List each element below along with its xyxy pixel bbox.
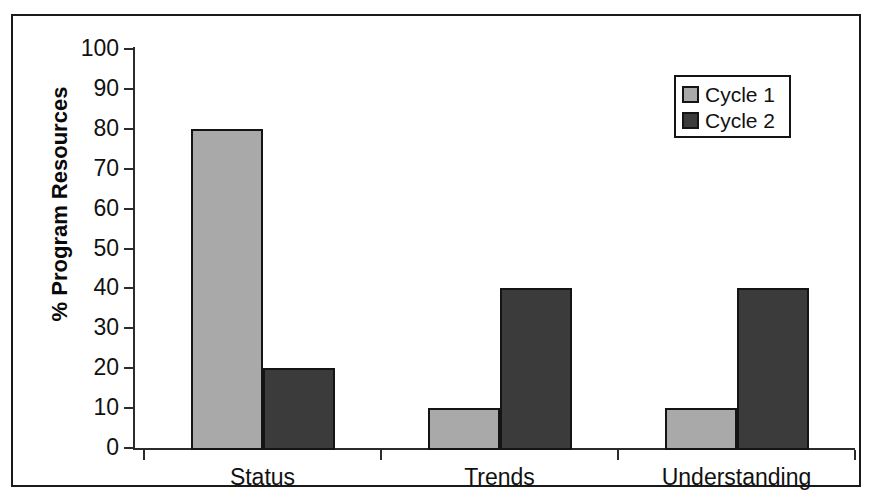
y-axis-tick-label: 40 [59,276,119,299]
legend-item-label: Cycle 1 [705,84,775,105]
x-axis-tick-mark [617,450,619,460]
y-axis-tick-mark [124,208,133,210]
bar [500,288,572,450]
y-axis-tick-label: 0 [59,436,119,459]
y-axis-tick-label: 70 [59,157,119,180]
y-axis-tick-label: 50 [59,237,119,260]
bar [191,129,263,450]
x-axis-category-label: Status [144,464,381,491]
y-axis-tick-labels: 1009080706050403020100 [47,16,119,486]
y-axis-tick-label: 100 [59,37,119,60]
chart-legend: Cycle 1 Cycle 2 [674,75,791,138]
y-axis-tick-mark [124,407,133,409]
y-axis-tick-mark [124,48,133,50]
x-axis-tick-mark [854,450,856,460]
chart-frame: % Program Resources 10090807060504030201… [11,14,861,487]
legend-swatch-icon [682,86,699,103]
y-axis-tick-mark [124,168,133,170]
bar [263,368,335,450]
y-axis-tick-mark [124,248,133,250]
y-axis-tick-mark [124,128,133,130]
y-axis-tick-label: 30 [59,316,119,339]
legend-item-cycle-2: Cycle 2 [682,107,784,133]
x-axis-tick-mark [143,450,145,460]
bar [665,408,737,450]
y-axis-line [133,47,135,450]
y-axis-tick-mark [124,88,133,90]
bar [737,288,809,450]
y-axis-tick-label: 90 [59,77,119,100]
y-axis-tick-mark [124,367,133,369]
y-axis-tick-mark [124,287,133,289]
x-axis-category-label: Understanding [618,464,855,491]
x-axis-category-label: Trends [381,464,618,491]
legend-item-cycle-1: Cycle 1 [682,81,784,107]
bar [428,408,500,450]
y-axis-tick-label: 60 [59,197,119,220]
legend-swatch-icon [682,112,699,129]
y-axis-tick-label: 80 [59,117,119,140]
chart-screenshot: % Program Resources 10090807060504030201… [0,0,872,501]
legend-item-label: Cycle 2 [705,110,775,131]
y-axis-tick-mark [124,447,133,449]
y-axis-tick-mark [124,327,133,329]
y-axis-tick-label: 10 [59,396,119,419]
y-axis-tick-label: 20 [59,356,119,379]
x-axis-tick-mark [380,450,382,460]
